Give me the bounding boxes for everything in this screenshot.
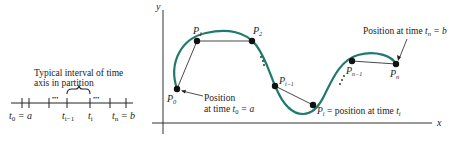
ellipsis-right: ••• — [93, 95, 99, 101]
start-annotation-line2: at time t0 = a — [204, 104, 255, 115]
point-p-n — [393, 61, 399, 67]
point-p0 — [174, 86, 180, 92]
y-axis-label: y — [155, 1, 161, 12]
end-annotation: Position at time tn = b — [363, 26, 447, 37]
point-p2 — [249, 38, 255, 44]
partition-caption-line2: axis in partition — [34, 78, 94, 88]
partition-caption-line1: Typical interval of time — [34, 68, 123, 78]
label-t0: t0 = a — [9, 110, 32, 123]
label-t-i-minus-1: ti−1 — [62, 110, 75, 123]
pi-annotation: Pi = position at time ti — [316, 106, 401, 117]
label-t-n: tn = b — [112, 110, 135, 123]
point-p-i-minus-1 — [272, 83, 278, 89]
point-p-i — [310, 102, 316, 108]
label-p1: P1 — [192, 25, 202, 37]
start-annotation-line1: Position — [204, 93, 235, 103]
label-p-n-minus-1: Pn−1 — [345, 65, 362, 77]
x-axis-label: x — [436, 117, 442, 128]
point-p-n-minus-1 — [349, 58, 355, 64]
label-p-n: Pn — [389, 68, 399, 80]
end-arrow-line — [399, 39, 407, 59]
label-t-i: ti — [88, 110, 93, 123]
partition-figure: Typical interval of time axis in partiti… — [9, 68, 135, 123]
ellipsis-left: ••• — [52, 95, 58, 101]
label-p2: P2 — [252, 25, 263, 37]
label-p-i-minus-1: Pi−1 — [278, 75, 294, 87]
curve-graph: y x P0 P1 P2 Pi−1 Pn — [152, 1, 447, 134]
label-p0: P0 — [166, 93, 177, 105]
start-arrowhead-icon — [181, 90, 186, 94]
point-p1 — [194, 38, 200, 44]
arc-length-diagram: Typical interval of time axis in partiti… — [0, 0, 457, 143]
